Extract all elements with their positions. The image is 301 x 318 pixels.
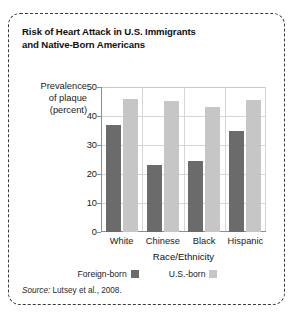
x-tick-label-white: White [110,236,134,246]
bar-hispanic-foreign-born [229,131,244,233]
bar-white-u-s-born [123,99,138,232]
bar-chinese-u-s-born [164,101,179,232]
source-prefix: Source: [22,286,50,295]
y-tick-label-20: 20 [87,169,97,179]
y-tick-label-30: 30 [87,140,97,150]
source-note: Source: Lutsey et al., 2008. [22,286,122,295]
figure-title-line-2: and Native-Born Americans [22,39,267,52]
bar-black-u-s-born [205,107,220,232]
x-tick-label-black: Black [193,236,216,246]
chart-legend: Foreign-born U.S.-born [9,269,286,279]
x-axis-tick-labels: WhiteChineseBlackHispanic [101,236,266,250]
y-tick-label-40: 40 [87,111,97,121]
legend-label-foreign-born: Foreign-born [78,269,127,279]
legend-item-foreign-born: Foreign-born [78,269,139,279]
bar-chinese-foreign-born [147,165,162,232]
y-tick-label-50: 50 [87,82,97,92]
legend-label-us-born: U.S.-born [169,269,206,279]
legend-swatch-foreign-born [131,270,139,278]
source-text: Lutsey et al., 2008. [50,286,121,295]
x-tick-label-chinese: Chinese [146,236,180,246]
figure-card: Risk of Heart Attack in U.S. Immigrants … [8,13,285,305]
bar-series-layer [101,87,266,232]
bar-hispanic-u-s-born [246,100,261,232]
x-axis-title: Race/Ethnicity [101,251,266,262]
legend-item-us-born: U.S.-born [169,269,218,279]
legend-swatch-us-born [209,270,217,278]
y-tick-0 [97,232,101,233]
bar-white-foreign-born [106,125,121,232]
y-axis-tick-labels: 01020304050 [71,87,97,232]
chart-area: Prevalence of plaque (percent) 010203040… [9,66,286,251]
x-tick-label-hispanic: Hispanic [228,236,264,246]
bar-black-foreign-born [188,161,203,232]
y-tick-label-10: 10 [87,198,97,208]
plot-area [101,87,266,232]
figure-title-line-1: Risk of Heart Attack in U.S. Immigrants [22,26,267,39]
figure-title: Risk of Heart Attack in U.S. Immigrants … [22,26,267,51]
